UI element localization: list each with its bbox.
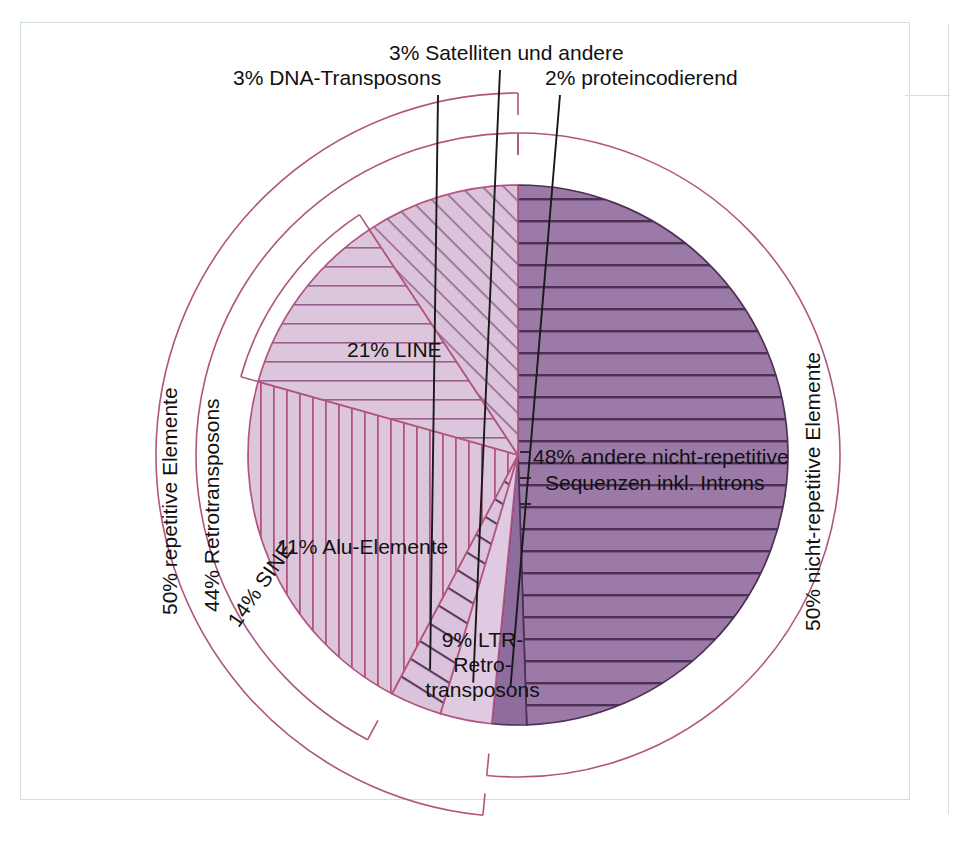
- label-bracket-retrotransposons: 44% Retrotransposons: [199, 398, 224, 612]
- label-bracket-repetitive: 50% repetitive Elemente: [157, 387, 182, 615]
- label-ltr-line1: 9% LTR-: [395, 627, 570, 652]
- label-alu-elemente: 11% Alu-Elemente: [277, 534, 448, 559]
- figure-canvas: 3% DNA-Transposons 3% Satelliten und and…: [0, 0, 965, 852]
- label-ltr-line3: transposons: [395, 677, 570, 702]
- label-line: 21% LINE: [347, 337, 442, 362]
- label-proteincodierend: 2% proteincodierend: [545, 65, 738, 90]
- label-nonrepetitive-line1: 48% andere nicht-repetitive: [533, 444, 789, 469]
- label-ltr-line2: Retro-: [395, 652, 570, 677]
- label-nonrepetitive-line2: Sequenzen inkl. Introns: [545, 470, 764, 495]
- label-bracket-nicht-repetitive: 50% nicht-repetitive Elemente: [800, 352, 825, 631]
- label-satelliten: 3% Satelliten und andere: [389, 40, 624, 65]
- label-dna-transposons: 3% DNA-Transposons: [233, 65, 441, 90]
